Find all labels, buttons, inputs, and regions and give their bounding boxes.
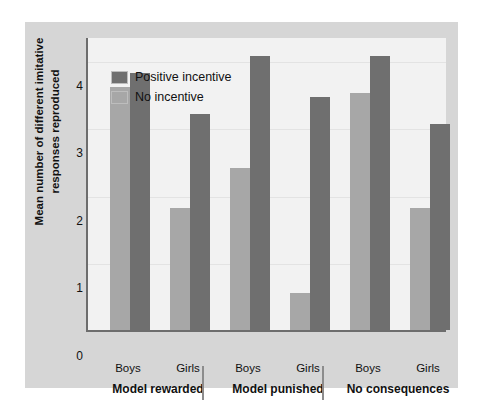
x-sub-label-3: Girls [278, 362, 338, 374]
chart-legend: Positive incentiveNo incentive [111, 70, 232, 110]
chart-figure: Mean number of different imitative respo… [25, 22, 458, 388]
x-sub-label-5: Girls [398, 362, 458, 374]
bar-model-punished-girls-no-incentive [290, 293, 310, 330]
bar-model-punished-boys-no-incentive [230, 168, 250, 330]
bar-no-consequences-girls-positive-incentive [430, 124, 450, 330]
bar-model-rewarded-girls-no-incentive [170, 208, 190, 330]
group-separator-0 [202, 366, 204, 400]
x-sub-label-0: Boys [98, 362, 158, 374]
x-sub-label-4: Boys [338, 362, 398, 374]
bar-no-consequences-boys-no-incentive [350, 93, 370, 330]
legend-item-positive-incentive: Positive incentive [111, 70, 232, 84]
bar-no-consequences-girls-no-incentive [410, 208, 430, 330]
y-tick-label-3: 3 [76, 147, 83, 159]
x-sub-label-1: Girls [158, 362, 218, 374]
bar-no-consequences-boys-positive-incentive [370, 56, 390, 330]
y-tick-label-4: 4 [76, 80, 83, 92]
bar-model-rewarded-boys-positive-incentive [130, 73, 150, 330]
y-axis-title: Mean number of different imitative respo… [32, 17, 63, 247]
group-separator-1 [322, 366, 324, 400]
bar-model-punished-boys-positive-incentive [250, 56, 270, 330]
bar-model-punished-girls-positive-incentive [310, 97, 330, 330]
y-tick-label-1: 1 [76, 282, 83, 294]
legend-swatch-icon [111, 71, 128, 84]
y-tick-label-0: 0 [76, 350, 83, 362]
bar-model-rewarded-girls-positive-incentive [190, 114, 210, 330]
y-tick-label-2: 2 [76, 215, 83, 227]
x-sub-label-2: Boys [218, 362, 278, 374]
x-group-label-no-consequences: No consequences [323, 382, 473, 396]
legend-label: No incentive [135, 90, 204, 104]
bar-model-rewarded-boys-no-incentive [110, 87, 130, 330]
y-axis-ticks: 01234 [65, 60, 83, 356]
legend-item-no-incentive: No incentive [111, 90, 232, 104]
legend-swatch-icon [111, 91, 128, 104]
legend-label: Positive incentive [135, 70, 232, 84]
